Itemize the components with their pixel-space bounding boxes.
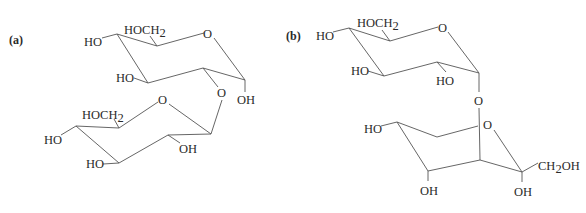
- panel-a-lower-ring: O HOCH2 HO HO OH: [44, 93, 222, 171]
- lower-b-anomeric-oh: OH: [514, 185, 532, 199]
- upper-a-c3-ho: HO: [116, 71, 134, 85]
- lower-a-c4-ho: HO: [44, 133, 62, 147]
- bond: [428, 160, 480, 171]
- lower-a-c6-hoch2: HOCH2: [82, 108, 124, 125]
- bond: [397, 122, 437, 137]
- panel-a-label: (a): [9, 33, 23, 47]
- bond: [119, 135, 168, 163]
- panel-b-upper-ring: HO HOCH2 O HO HO O: [316, 16, 483, 108]
- bond: [437, 62, 479, 73]
- upper-a-c4-ho: HO: [84, 35, 102, 49]
- upper-a-c6-hoch2: HOCH2: [124, 23, 166, 40]
- upper-a-anomeric-oh: OH: [237, 93, 255, 107]
- bond: [119, 102, 158, 128]
- glycosidic-oxygen-b: O: [474, 94, 483, 108]
- bond: [214, 38, 245, 80]
- upper-b-c4-ho: HO: [316, 29, 334, 43]
- glycosidic-oxygen-a: O: [217, 86, 226, 100]
- bond: [203, 68, 245, 80]
- upper-b-ring-oxygen: O: [438, 21, 447, 35]
- lower-a-ring-oxygen: O: [158, 93, 167, 107]
- bond: [103, 163, 119, 164]
- bond: [148, 68, 203, 83]
- lower-b-left-ho: HO: [364, 122, 382, 136]
- panel-a: (a) HO HOCH2 O HO OH O: [9, 23, 255, 171]
- bond: [61, 126, 76, 135]
- bond: [397, 122, 428, 171]
- panel-b-lower-ring: O HO OH OH CH2OH: [364, 108, 580, 199]
- bond: [203, 68, 218, 87]
- upper-a-ring-oxygen: O: [203, 27, 212, 41]
- bond: [437, 126, 478, 137]
- lower-b-ring-oxygen: O: [483, 118, 492, 132]
- panel-b-label: (b): [286, 29, 301, 43]
- bond: [381, 122, 397, 126]
- disaccharide-structures-diagram: (a) HO HOCH2 O HO OH O: [0, 0, 586, 213]
- bond: [494, 130, 522, 172]
- panel-a-upper-ring: HO HOCH2 O HO OH O: [84, 23, 255, 107]
- bond: [76, 126, 119, 128]
- upper-b-c3-ho: HO: [351, 64, 369, 78]
- bond: [211, 100, 222, 134]
- bond: [333, 28, 349, 32]
- bond: [522, 163, 538, 172]
- bond: [168, 134, 211, 135]
- upper-b-c2-ho: HO: [436, 74, 454, 88]
- bond: [169, 104, 211, 134]
- bond: [102, 34, 117, 38]
- lower-a-c2-oh: OH: [179, 142, 197, 156]
- lower-b-ch2oh: CH2OH: [538, 159, 580, 176]
- bond: [479, 108, 480, 160]
- bond: [384, 62, 437, 76]
- lower-a-c3-ho: HO: [86, 157, 104, 171]
- bond: [368, 71, 384, 76]
- upper-b-c6-hoch2: HOCH2: [357, 16, 399, 33]
- lower-b-bottom-oh: OH: [420, 184, 438, 198]
- bond: [448, 32, 479, 73]
- panel-b: (b) HO HOCH2 O HO HO O: [286, 16, 580, 199]
